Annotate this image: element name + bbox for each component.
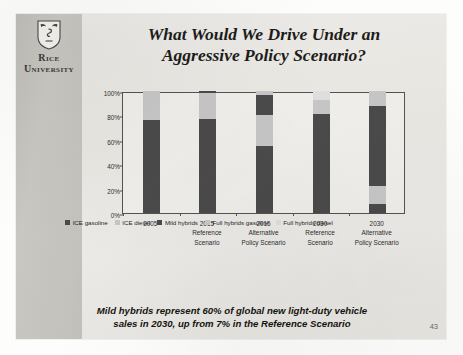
x-axis-label-line: Policy Scenario	[346, 238, 408, 247]
y-axis-tick-mark	[120, 166, 123, 167]
x-axis-label-line: Scenario	[176, 238, 238, 247]
legend-label: Mild hybrids	[165, 219, 198, 226]
bar-segment	[369, 186, 386, 204]
x-axis-label-line: Reference	[289, 228, 351, 237]
legend-label: Full hybrids diesel	[283, 219, 333, 226]
title-line-2: Aggressive Policy Scenario?	[94, 45, 434, 66]
title-line-1: What Would We Drive Under an	[148, 24, 381, 44]
y-axis-tick-label: 20%	[107, 187, 120, 194]
legend-swatch-icon	[115, 220, 120, 225]
page-number: 43	[430, 322, 438, 331]
legend-item: ICE gasoline	[65, 219, 108, 226]
legend-item: Mild hybrids	[157, 219, 198, 226]
bar-segment	[313, 91, 330, 100]
bar-column	[369, 91, 386, 213]
slide-caption: Mild hybrids represent 60% of global new…	[56, 305, 408, 331]
bar-segment	[313, 114, 330, 213]
logo-text-university: University	[16, 64, 82, 75]
page-title: What Would We Drive Under an Aggressive …	[94, 24, 434, 67]
y-axis-tick-mark	[120, 190, 123, 191]
y-axis-tick-label: 40%	[107, 163, 120, 170]
x-axis-label-line: Alternative	[233, 228, 295, 237]
bar-segment	[256, 146, 273, 213]
rice-university-logo: Rice University	[16, 20, 82, 74]
x-axis-label-line: Alternative	[346, 228, 408, 237]
y-axis-tick-mark	[120, 93, 123, 94]
y-axis-tick-label: 0%	[111, 212, 120, 219]
legend-swatch-icon	[205, 220, 210, 225]
bar-segment	[143, 91, 160, 120]
chart-legend: ICE gasolineICE dieselMild hybridsFull h…	[34, 219, 364, 226]
y-axis-tick-label: 100%	[104, 90, 120, 97]
legend-item: ICE diesel	[115, 219, 151, 226]
legend-swatch-icon	[157, 220, 162, 225]
x-axis-tick-mark	[349, 213, 350, 216]
bar-column	[143, 91, 160, 213]
bar-segment	[256, 115, 273, 146]
legend-swatch-icon	[65, 220, 70, 225]
bar-column	[199, 91, 216, 213]
y-axis-tick-label: 60%	[107, 138, 120, 145]
x-axis-label-line: Policy Scenario	[233, 238, 295, 247]
bar-segment	[199, 119, 216, 213]
x-axis-label-line: 2030	[370, 220, 384, 227]
legend-label: ICE gasoline	[73, 219, 108, 226]
legend-label: Full hybrids gasoline	[212, 219, 268, 226]
stacked-bar-chart: 0%20%40%60%80%100% 20052015ReferenceScen…	[74, 88, 424, 288]
slide: Rice University What Would We Drive Unde…	[16, 14, 446, 339]
x-axis-tick-mark	[180, 213, 181, 216]
bar-segment	[369, 91, 386, 106]
plot-area: 0%20%40%60%80%100%	[122, 92, 405, 214]
caption-line-2: sales in 2030, up from 7% in the Referen…	[56, 318, 408, 331]
branding-band: Rice University	[16, 14, 82, 339]
scanned-page: Rice University What Would We Drive Unde…	[0, 0, 463, 355]
bar-segment	[369, 204, 386, 213]
legend-item: Full hybrids diesel	[276, 219, 333, 226]
x-axis-label-line: Scenario	[289, 238, 351, 247]
bar-column	[313, 91, 330, 213]
caption-line-1: Mild hybrids represent 60% of global new…	[97, 305, 367, 316]
x-axis-label-line: Reference	[176, 228, 238, 237]
x-axis-tick-mark	[293, 213, 294, 216]
bar-segment	[256, 95, 273, 116]
x-axis-tick-mark	[236, 213, 237, 216]
legend-swatch-icon	[276, 220, 281, 225]
bar-segment	[313, 100, 330, 115]
y-axis-tick-mark	[120, 117, 123, 118]
slide-background: Rice University What Would We Drive Unde…	[16, 14, 446, 339]
y-axis-tick-mark	[120, 141, 123, 142]
x-axis-tick-mark	[123, 213, 124, 216]
y-axis-tick-label: 80%	[107, 114, 120, 121]
logo-text-rice: Rice	[16, 53, 82, 64]
rice-shield-icon	[36, 20, 62, 50]
bar-segment	[369, 106, 386, 187]
bar-segment	[143, 120, 160, 213]
bar-column	[256, 91, 273, 213]
legend-label: ICE diesel	[122, 219, 150, 226]
legend-item: Full hybrids gasoline	[205, 219, 269, 226]
bar-segment	[199, 93, 216, 119]
